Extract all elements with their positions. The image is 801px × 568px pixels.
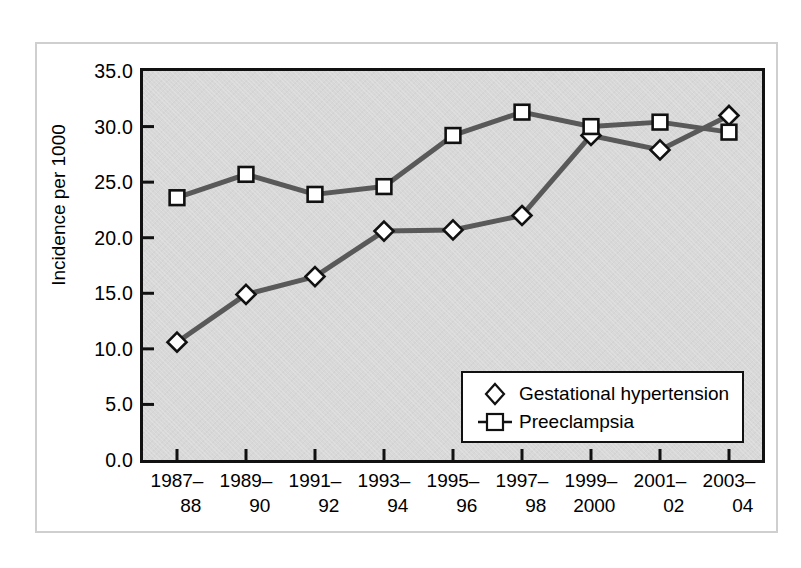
- square-marker-icon: [475, 409, 515, 435]
- legend-label: Preeclampsia: [515, 411, 634, 433]
- y-tick-label: 20.0: [94, 226, 133, 249]
- x-tick-label: 1997–98: [496, 468, 549, 518]
- y-axis-tick-labels: 35.030.025.020.015.010.05.00.0: [37, 44, 133, 487]
- data-point-diamond-marker: [444, 220, 463, 239]
- series-line: [177, 112, 729, 198]
- data-point-square-marker: [239, 167, 254, 182]
- legend-label: Gestational hypertension: [515, 383, 729, 405]
- data-point-square-marker: [308, 187, 323, 202]
- diamond-marker-icon: [475, 381, 515, 407]
- x-tick-label: 1989–90: [220, 468, 273, 518]
- data-point-diamond-marker: [651, 140, 670, 159]
- x-axis-tick-labels: 1987–881989–901991–921993–941995–961997–…: [140, 468, 765, 530]
- chart-legend: Gestational hypertension Preeclampsia: [461, 371, 744, 443]
- data-point-square-marker: [377, 179, 392, 194]
- data-point-diamond-marker: [720, 106, 739, 125]
- y-tick-label: 10.0: [94, 337, 133, 360]
- x-tick-label: 1995–96: [427, 468, 480, 518]
- x-tick-label: 1987–88: [151, 468, 204, 518]
- x-tick-label: 2003–04: [703, 468, 756, 518]
- data-point-square-marker: [446, 128, 461, 143]
- data-point-square-marker: [722, 125, 737, 140]
- x-tick-label: 1991–92: [289, 468, 342, 518]
- data-point-square-marker: [515, 105, 530, 120]
- y-tick-label: 0.0: [105, 449, 133, 472]
- figure-panel: Incidence per 1000 35.030.025.020.015.01…: [35, 42, 778, 533]
- y-tick-label: 30.0: [94, 115, 133, 138]
- data-point-square-marker: [584, 119, 599, 134]
- x-tick-label: 1999–2000: [565, 468, 618, 518]
- y-tick-label: 5.0: [105, 393, 133, 416]
- data-point-square-marker: [653, 115, 668, 130]
- legend-item-preeclampsia: Preeclampsia: [475, 408, 742, 436]
- data-point-square-marker: [170, 190, 185, 205]
- x-tick-label: 1993–94: [358, 468, 411, 518]
- y-tick-label: 15.0: [94, 282, 133, 305]
- legend-item-gestational-hypertension: Gestational hypertension: [475, 380, 742, 408]
- y-tick-label: 35.0: [94, 60, 133, 83]
- y-tick-label: 25.0: [94, 171, 133, 194]
- x-tick-label: 2001–02: [634, 468, 687, 518]
